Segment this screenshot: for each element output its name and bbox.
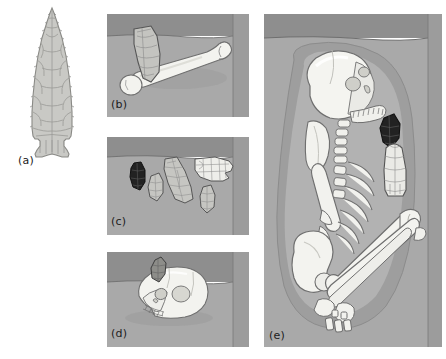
panel-label-e: (e): [269, 330, 285, 341]
excavation-scene-cranium: [107, 252, 249, 347]
projectile-point-drawing: [0, 0, 104, 180]
excavation-back-wall: [264, 14, 442, 38]
excavation-side-wall: [233, 252, 249, 347]
excavation-side-wall: [233, 137, 249, 235]
orbit-right: [359, 67, 370, 77]
calcaneus: [314, 299, 334, 317]
grave-good-fluted-point: [384, 142, 406, 196]
panel-b-bone-with-point: [107, 14, 249, 117]
fluted-point-white: [195, 157, 233, 181]
excavation-side-wall: [233, 14, 249, 117]
archaeological-figure: (a): [0, 0, 446, 359]
small-biface: [148, 173, 163, 201]
burial-plan-view: [264, 14, 442, 347]
human-skull: [307, 50, 374, 119]
excavation-scene-lithics: [107, 137, 249, 235]
orbit-left: [346, 77, 361, 91]
panel-d-cranium-with-point: [107, 252, 249, 347]
panel-label-c: (c): [111, 216, 126, 227]
panel-e-flexed-burial: [264, 14, 442, 347]
excavation-side-wall: [428, 14, 442, 347]
excavation-back-wall: [107, 137, 249, 157]
panel-c-lithic-cluster: [107, 137, 249, 235]
obsidian-point: [130, 162, 145, 190]
lumbar-vertebrae: [333, 165, 347, 198]
panel-label-d: (d): [111, 328, 127, 339]
panel-label-b: (b): [111, 99, 127, 110]
panel-label-a: (a): [18, 155, 34, 166]
temporal-fossa: [172, 286, 190, 302]
patella: [414, 228, 426, 241]
excavation-scene-bone: [107, 14, 249, 117]
excavation-back-wall: [107, 14, 249, 36]
panel-a-projectile-point: [0, 0, 104, 180]
